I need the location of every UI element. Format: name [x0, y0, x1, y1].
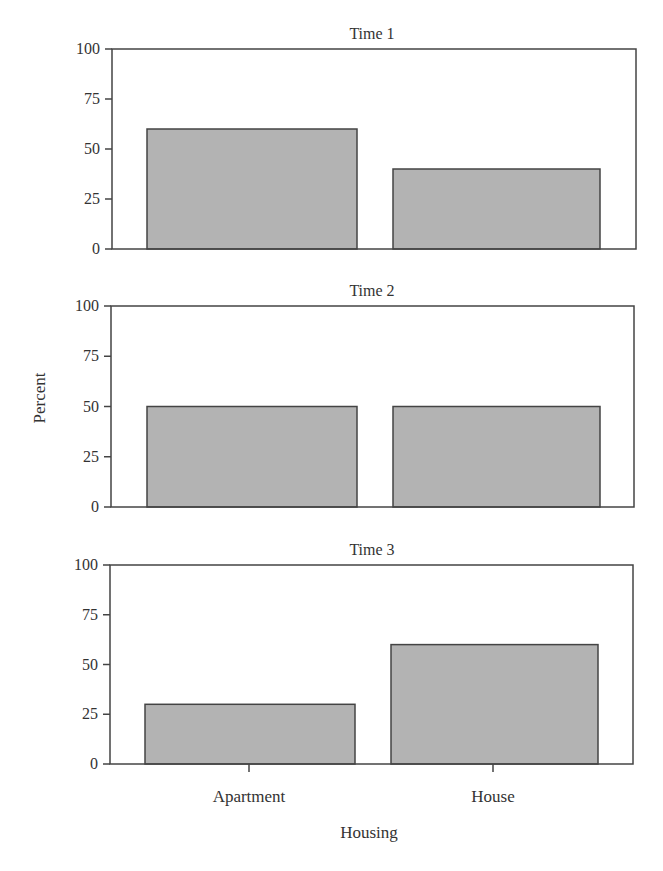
y-tick-label: 25 — [82, 705, 98, 722]
y-tick-label: 0 — [91, 498, 99, 515]
bar-house — [393, 407, 600, 508]
bar-house — [391, 645, 598, 764]
y-tick-label: 100 — [76, 40, 100, 57]
y-tick-label: 75 — [82, 606, 98, 623]
panel-title: Time 1 — [349, 25, 394, 42]
y-tick-label: 0 — [92, 240, 100, 257]
y-tick-label: 50 — [84, 140, 100, 157]
y-tick-label: 75 — [84, 90, 100, 107]
panel-title: Time 2 — [349, 282, 394, 299]
faceted-bar-chart: Time 10255075100Time 20255075100Time 302… — [0, 0, 663, 871]
x-tick-label-house: House — [471, 787, 514, 806]
panel-title: Time 3 — [349, 541, 394, 558]
y-tick-label: 50 — [83, 398, 99, 415]
y-tick-label: 0 — [90, 755, 98, 772]
panel-1: Time 10255075100 — [76, 25, 636, 257]
y-axis-label: Percent — [30, 372, 49, 423]
x-axis-label: Housing — [340, 823, 398, 842]
panel-3: Time 30255075100 — [74, 541, 633, 772]
y-tick-label: 50 — [82, 656, 98, 673]
y-tick-label: 25 — [84, 190, 100, 207]
x-tick-label-apartment: Apartment — [213, 787, 286, 806]
y-tick-label: 25 — [83, 448, 99, 465]
y-tick-label: 100 — [74, 556, 98, 573]
y-tick-label: 100 — [75, 297, 99, 314]
bar-apartment — [145, 704, 355, 764]
y-tick-label: 75 — [83, 347, 99, 364]
bar-apartment — [147, 407, 357, 508]
bar-house — [393, 169, 600, 249]
panel-2: Time 20255075100 — [75, 282, 634, 515]
bar-apartment — [147, 129, 357, 249]
